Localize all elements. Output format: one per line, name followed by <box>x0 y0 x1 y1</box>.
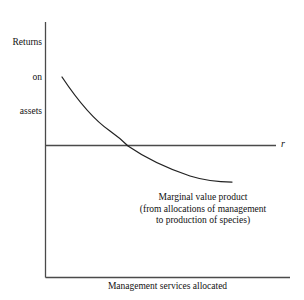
marginal-value-product-curve <box>62 77 232 182</box>
curve-annotation: Marginal value product (from allocations… <box>108 192 298 227</box>
y-axis-title-line-1: Returns <box>0 37 42 49</box>
y-axis-title-line-2: on <box>0 72 42 84</box>
r-axis-label: r <box>281 138 285 149</box>
curve-annotation-line-1: Marginal value product <box>108 192 298 204</box>
x-axis-title: Management services allocated <box>45 281 290 293</box>
curve-annotation-line-2: (from allocations of management <box>108 204 298 216</box>
economics-figure: Returns on assets r Marginal value produ… <box>0 0 304 300</box>
plot-canvas <box>0 0 304 300</box>
y-axis-title-line-3: assets <box>0 106 42 118</box>
y-axis-title: Returns on assets <box>0 14 42 141</box>
curve-annotation-line-3: to production of species) <box>108 215 298 227</box>
